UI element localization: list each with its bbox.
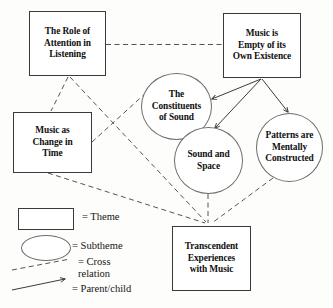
legend-theme-swatch [18, 208, 74, 230]
edge-change-to-constituents [92, 91, 148, 142]
node-label: The Constituents of Sound [150, 89, 203, 123]
node-patterns-mentally-constructed[interactable]: Patterns are Mentally Constructed [256, 113, 323, 182]
node-label: Patterns are Mentally Constructed [263, 130, 315, 164]
node-label: Sound and Space [185, 149, 231, 172]
legend-cross-relation-label: = Cross relation [78, 256, 110, 279]
node-music-change[interactable]: Music as Change in Time [13, 112, 92, 173]
edge-role-to-change [51, 77, 68, 111]
concept-map-diagram: The Role of Attention in Listening Music… [0, 0, 333, 308]
edge-empty-to-constituents [212, 79, 261, 99]
edge-empty-to-soundspace [215, 79, 261, 128]
node-role-attention[interactable]: The Role of Attention in Listening [29, 11, 106, 76]
edge-empty-to-patterns [262, 79, 288, 112]
node-label: Music as Change in Time [31, 125, 75, 159]
legend-arrow-sample [12, 279, 65, 290]
legend-theme-label: = Theme [82, 211, 120, 223]
node-transcendent[interactable]: Transcendent Experiences with Music [172, 226, 251, 291]
node-label: Transcendent Experiences with Music [183, 241, 240, 275]
legend-subtheme-label: = Subtheme [72, 240, 123, 252]
node-label: The Role of Attention in Listening [42, 26, 93, 60]
legend-parent-child-label: = Parent/child [72, 283, 131, 295]
legend-subtheme-swatch [21, 235, 71, 261]
node-label: Music is Empty of its Own Existence [231, 28, 293, 62]
node-music-empty[interactable]: Music is Empty of its Own Existence [223, 13, 301, 78]
node-sound-and-space[interactable]: Sound and Space [174, 127, 243, 194]
